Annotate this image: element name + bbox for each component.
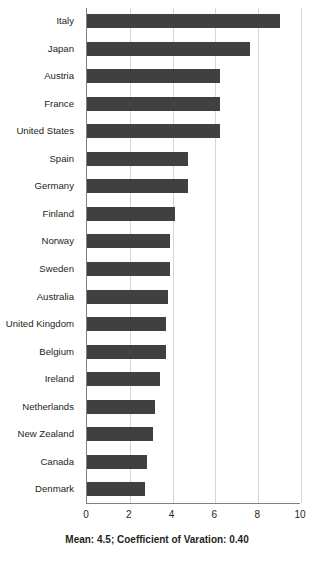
chart-caption: Mean: 4.5; Coefficient of Varation: 0.40 xyxy=(0,534,314,545)
category-label-denmark: Denmark xyxy=(0,482,80,496)
x-tick-label-8: 8 xyxy=(254,508,260,522)
bar-australia xyxy=(87,290,168,304)
bar-row xyxy=(87,173,300,201)
bar-norway xyxy=(87,234,170,248)
bar-chart: ItalyJapanAustriaFranceUnited StatesSpai… xyxy=(0,0,314,561)
bar-united-states xyxy=(87,124,220,138)
category-label-belgium: Belgium xyxy=(0,345,80,359)
category-label-new-zealand: New Zealand xyxy=(0,427,80,441)
category-label-austria: Austria xyxy=(0,69,80,83)
bar-row xyxy=(87,146,300,174)
category-label-germany: Germany xyxy=(0,179,80,193)
bar-row xyxy=(87,36,300,64)
bar-finland xyxy=(87,207,175,221)
bar-austria xyxy=(87,69,220,83)
category-label-united-states: United States xyxy=(0,124,80,138)
bar-france xyxy=(87,97,220,111)
bar-row xyxy=(87,201,300,229)
category-label-france: France xyxy=(0,97,80,111)
bar-spain xyxy=(87,152,188,166)
bar-row xyxy=(87,8,300,36)
bar-row xyxy=(87,449,300,477)
category-label-japan: Japan xyxy=(0,42,80,56)
bar-sweden xyxy=(87,262,170,276)
bar-italy xyxy=(87,14,280,28)
bar-united-kingdom xyxy=(87,317,166,331)
bar-ireland xyxy=(87,372,160,386)
bar-row xyxy=(87,394,300,422)
category-label-sweden: Sweden xyxy=(0,262,80,276)
bar-row xyxy=(87,311,300,339)
x-tick-label-6: 6 xyxy=(212,508,218,522)
x-tick-label-2: 2 xyxy=(126,508,132,522)
x-tick-label-0: 0 xyxy=(83,508,89,522)
x-tick-label-10: 10 xyxy=(294,508,305,522)
bar-row xyxy=(87,421,300,449)
bar-canada xyxy=(87,455,147,469)
bar-row xyxy=(87,228,300,256)
gridline-10 xyxy=(301,8,302,503)
category-label-spain: Spain xyxy=(0,152,80,166)
bar-germany xyxy=(87,179,188,193)
category-label-united-kingdom: United Kingdom xyxy=(0,317,80,331)
bar-row xyxy=(87,366,300,394)
category-label-italy: Italy xyxy=(0,14,80,28)
category-label-netherlands: Netherlands xyxy=(0,400,80,414)
bar-japan xyxy=(87,42,250,56)
plot-area xyxy=(86,8,300,504)
bar-netherlands xyxy=(87,400,155,414)
bar-belgium xyxy=(87,345,166,359)
bar-new-zealand xyxy=(87,427,153,441)
bar-row xyxy=(87,476,300,504)
category-label-norway: Norway xyxy=(0,234,80,248)
category-label-ireland: Ireland xyxy=(0,372,80,386)
bar-row xyxy=(87,284,300,312)
bar-row xyxy=(87,63,300,91)
category-label-finland: Finland xyxy=(0,207,80,221)
bar-row xyxy=(87,256,300,284)
category-axis-labels: ItalyJapanAustriaFranceUnited StatesSpai… xyxy=(0,8,80,504)
category-label-australia: Australia xyxy=(0,290,80,304)
bar-row xyxy=(87,91,300,119)
bar-row xyxy=(87,339,300,367)
bar-denmark xyxy=(87,482,145,496)
category-label-canada: Canada xyxy=(0,455,80,469)
x-axis-tick-labels: 0246810 xyxy=(86,508,300,524)
bar-row xyxy=(87,118,300,146)
x-tick-label-4: 4 xyxy=(169,508,175,522)
